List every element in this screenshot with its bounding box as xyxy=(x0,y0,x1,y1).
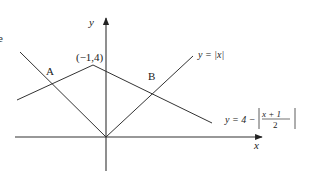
abs-x-label: y = |x| xyxy=(197,49,224,60)
point-b-label: B xyxy=(148,70,155,82)
function-graph: y x (−1,4) A B e y = |x| y = 4 − x + 1 2 xyxy=(0,0,313,171)
tent-label-prefix: y = 4 − xyxy=(224,114,255,125)
x-axis-label: x xyxy=(253,139,259,151)
edge-fragment: e xyxy=(0,32,3,44)
tent-denominator: 2 xyxy=(273,120,278,130)
point-a-label: A xyxy=(46,65,54,77)
peak-label: (−1,4) xyxy=(76,51,104,64)
y-axis-label: y xyxy=(88,16,94,28)
tent-numerator: x + 1 xyxy=(261,109,281,119)
